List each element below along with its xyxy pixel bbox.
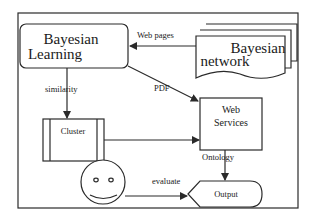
smiley-face-icon bbox=[81, 160, 125, 204]
similarity-label: similarity bbox=[45, 84, 78, 94]
ontology-label: Ontology bbox=[202, 152, 235, 162]
web-pages-label: Web pages bbox=[137, 30, 174, 40]
bayesian-learning-node[interactable]: Bayesian Learning bbox=[20, 24, 128, 68]
web-services-line2: Services bbox=[214, 117, 248, 128]
cluster-node[interactable]: Cluster bbox=[43, 119, 104, 161]
system-diagram: Bayesian network Web pages Bayesian Lear… bbox=[0, 0, 315, 217]
bayesian-network-line2: network bbox=[200, 53, 250, 69]
output-label: Output bbox=[214, 189, 238, 199]
bayesian-learning-line1: Bayesian bbox=[44, 31, 99, 47]
evaluate-label: evaluate bbox=[152, 176, 181, 186]
web-services-node[interactable]: Web Services bbox=[200, 98, 262, 150]
bayesian-learning-line2: Learning bbox=[28, 46, 83, 62]
bayesian-network-node[interactable]: Bayesian network bbox=[196, 24, 297, 78]
pdf-label: PDF bbox=[154, 83, 170, 93]
output-node[interactable]: Output bbox=[188, 181, 262, 207]
user-smiley-node[interactable] bbox=[81, 160, 125, 204]
web-services-line1: Web bbox=[222, 104, 240, 115]
cluster-label: Cluster bbox=[61, 126, 86, 136]
